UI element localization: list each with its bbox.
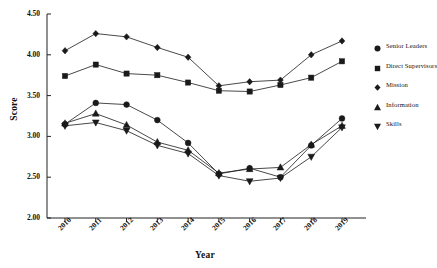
- legend-marker-diamond-icon: [372, 79, 383, 90]
- y-axis-tick-label: 3.00: [14, 131, 40, 140]
- data-point-square: [62, 73, 67, 78]
- legend-marker-circle-icon: [372, 40, 383, 51]
- legend-marker-triangle-down-icon: [372, 118, 383, 129]
- legend-label: Direct Supervisors: [386, 62, 437, 69]
- series-senior-leaders: [62, 100, 345, 180]
- data-point-square: [309, 75, 314, 80]
- data-point-diamond: [308, 52, 314, 58]
- data-point-square: [93, 62, 98, 67]
- data-point-diamond: [154, 44, 160, 50]
- data-point-triangle-up: [277, 164, 284, 170]
- data-point-triangle-down: [62, 123, 69, 129]
- y-axis-ticks: [47, 14, 51, 218]
- data-point-square: [186, 80, 191, 85]
- data-point-diamond: [62, 48, 68, 54]
- legend-item-direct-supervisors[interactable]: Direct Supervisors: [372, 56, 436, 76]
- data-point-circle: [93, 100, 99, 106]
- y-axis-title: Score: [9, 79, 19, 139]
- data-point-triangle-up: [92, 110, 99, 116]
- legend-marker-square-icon: [372, 60, 383, 71]
- y-axis-tick-label: 4.00: [14, 50, 40, 59]
- y-axis-tick-label: 4.50: [14, 9, 40, 18]
- data-point-circle: [124, 102, 130, 108]
- series-line: [65, 103, 342, 177]
- series-mission: [62, 30, 345, 89]
- legend-label: Skills: [386, 120, 402, 127]
- data-point-square: [339, 59, 344, 64]
- x-axis-title: Year: [150, 250, 260, 260]
- legend-item-mission[interactable]: Mission: [372, 75, 436, 95]
- legend-label: Information: [386, 101, 419, 108]
- data-point-diamond: [93, 30, 99, 36]
- series-direct-supervisors: [62, 59, 344, 94]
- y-axis-tick-label: 3.50: [14, 91, 40, 100]
- data-point-triangle-down: [123, 128, 130, 134]
- data-point-diamond: [124, 34, 130, 40]
- data-series-group: [62, 30, 346, 184]
- legend-item-skills[interactable]: Skills: [372, 114, 436, 134]
- series-line: [65, 34, 342, 86]
- data-point-triangle-down: [185, 151, 192, 157]
- axes: [47, 14, 366, 222]
- series-skills: [62, 120, 346, 185]
- data-point-square: [155, 73, 160, 78]
- data-point-circle: [185, 140, 191, 146]
- data-point-triangle-down: [308, 154, 315, 160]
- series-line: [65, 123, 342, 182]
- chart-legend: Senior LeadersDirect SupervisorsMissionI…: [372, 36, 436, 134]
- series-information: [62, 110, 346, 176]
- legend-label: Mission: [386, 81, 408, 88]
- legend-item-information[interactable]: Information: [372, 95, 436, 115]
- y-axis-tick-label: 2.50: [14, 172, 40, 181]
- data-point-triangle-down: [246, 179, 253, 185]
- data-point-square: [247, 89, 252, 94]
- legend-item-senior-leaders[interactable]: Senior Leaders: [372, 36, 436, 56]
- data-point-circle: [339, 116, 345, 122]
- data-point-circle: [154, 117, 160, 123]
- legend-marker-triangle-up-icon: [372, 99, 383, 110]
- data-point-diamond: [247, 79, 253, 85]
- x-axis-ticks: [65, 218, 342, 222]
- data-point-square: [124, 71, 129, 76]
- data-point-diamond: [339, 38, 345, 44]
- y-axis-tick-label: 2.00: [14, 213, 40, 222]
- series-line: [65, 61, 342, 91]
- legend-label: Senior Leaders: [386, 42, 427, 49]
